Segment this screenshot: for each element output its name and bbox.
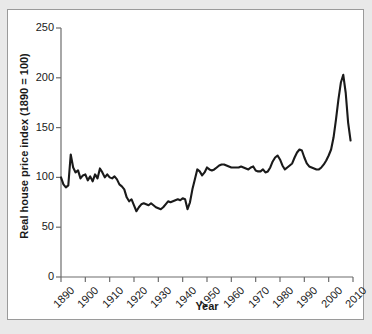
- axis-spines: [61, 28, 353, 277]
- data-series-line: [61, 75, 351, 211]
- y-tick-label-text: 100: [28, 171, 54, 182]
- figure-container: Real house price index (1890 = 100) Year…: [0, 0, 372, 334]
- y-tick-label-text: 250: [28, 22, 54, 33]
- y-tick-label: 200: [22, 72, 54, 83]
- y-tick-label: 0: [22, 271, 54, 282]
- y-tick-label-text: 0: [28, 271, 54, 282]
- y-tick-marks: [56, 28, 61, 277]
- x-tick-label: 2010: [320, 284, 360, 298]
- y-tick-label-text: 200: [28, 72, 54, 83]
- x-tick-marks: [61, 277, 353, 282]
- y-tick-label: 100: [22, 171, 54, 182]
- chart-plot-area: Real house price index (1890 = 100) Year…: [0, 0, 372, 334]
- y-tick-label: 50: [22, 221, 54, 232]
- y-tick-label: 150: [22, 122, 54, 133]
- y-tick-label-text: 50: [28, 221, 54, 232]
- y-tick-label: 250: [22, 22, 54, 33]
- y-tick-label-text: 150: [28, 122, 54, 133]
